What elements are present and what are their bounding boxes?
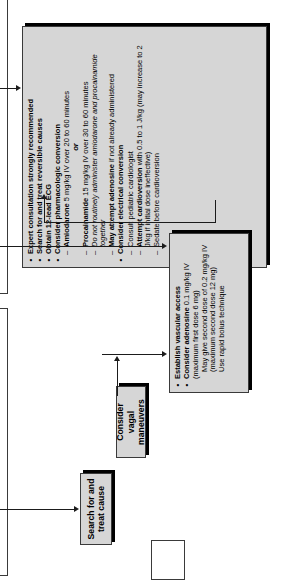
arrowhead-vagal-to-adenosine bbox=[162, 351, 167, 357]
connector-into-expert-left bbox=[0, 88, 17, 89]
connector-into-adenosine-left bbox=[0, 246, 163, 247]
list-item: Attempt cardioversion with 0.5 to 1 J/kg… bbox=[136, 32, 153, 262]
arrowhead-adenosine-to-expert bbox=[41, 194, 47, 199]
adenosine-box[interactable]: Establish vascular accessConsider adenos… bbox=[169, 233, 249, 393]
connector-into-search-left bbox=[0, 509, 75, 510]
connector-vagal-to-adenosine-horizontal bbox=[102, 354, 164, 355]
connector-adenosine-to-expert-riser bbox=[215, 200, 216, 223]
vagal-maneuvers-label: Consider vagal maneuvers bbox=[116, 387, 146, 457]
list-item: Do not routinely administer amiodarone a… bbox=[91, 32, 108, 262]
list-item: May give second dose of 0.2 mg/kg IV (ma… bbox=[201, 239, 218, 387]
search-treat-cause-label: Search for and treat cause bbox=[86, 474, 107, 544]
arrowhead-into-adenosine-left bbox=[162, 243, 167, 249]
arrowhead-into-search-left bbox=[74, 506, 79, 512]
expert-consultation-box[interactable]: Expert consultation strongly recommended… bbox=[22, 26, 267, 268]
clipped-box-bottom-left bbox=[0, 308, 8, 576]
clipped-box-bottom-right bbox=[151, 540, 185, 580]
clipped-box-top-left bbox=[0, 0, 8, 294]
expert-consultation-list: Expert consultation strongly recommended… bbox=[23, 27, 165, 267]
list-item: Consider electrical conversion bbox=[117, 32, 126, 262]
arrowhead-vagal-riser bbox=[114, 356, 120, 361]
search-treat-cause-box[interactable]: Search for and treat cause bbox=[80, 473, 112, 545]
vagal-maneuvers-box[interactable]: Consider vagal maneuvers bbox=[116, 386, 146, 458]
arrowhead-into-expert-left bbox=[16, 85, 21, 91]
list-item: Consider adenosine 0.1 mg/kg IV (maximum… bbox=[183, 239, 200, 387]
connector-vagal-riser bbox=[117, 361, 118, 396]
list-item: Use rapid bolus technique bbox=[218, 239, 227, 387]
adenosine-list: Establish vascular accessConsider adenos… bbox=[170, 234, 231, 392]
connector-adenosine-to-expert-horizontal bbox=[44, 222, 216, 223]
connector-adenosine-to-expert-vertical bbox=[44, 199, 45, 223]
list-item: Sedate before cardioversion bbox=[153, 32, 162, 262]
